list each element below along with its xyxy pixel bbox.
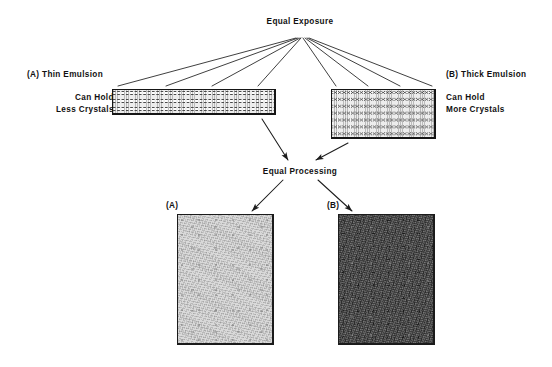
exposure-ray-r1 — [303, 38, 336, 86]
arrow-processing-to-result-a — [252, 180, 283, 211]
exposure-ray-l1 — [118, 38, 296, 86]
exposure-ray-l4 — [258, 38, 301, 86]
title-equal-exposure: Equal Exposure — [267, 16, 334, 28]
thin-emulsion-cross-section — [112, 89, 276, 115]
label-thick-capacity-line-2: More Crystals — [446, 104, 505, 116]
arrow-thick-to-processing — [316, 143, 348, 160]
grain-texture-b — [339, 215, 433, 343]
grain-texture-a — [178, 215, 272, 343]
thick-emulsion-cross-section — [331, 89, 436, 139]
result-patch-b-high-density — [338, 214, 435, 345]
emulsion-hatch-thick — [332, 90, 434, 137]
connector-lines — [0, 0, 552, 367]
label-thick-emulsion-capacity: Can Hold More Crystals — [446, 92, 505, 115]
exposure-ray-r3 — [307, 38, 400, 86]
label-thick-capacity-line-1: Can Hold — [446, 92, 505, 104]
exposure-ray-r2 — [305, 38, 368, 86]
label-thin-emulsion-heading: (A) Thin Emulsion — [27, 69, 103, 81]
label-result-a: (A) — [166, 200, 178, 212]
label-thin-capacity-line-2: Less Crystals — [56, 104, 114, 116]
label-thick-emulsion-heading: (B) Thick Emulsion — [446, 69, 526, 81]
arrow-thin-to-processing — [262, 119, 288, 160]
label-result-b: (B) — [327, 200, 339, 212]
label-thin-emulsion-capacity: Can Hold Less Crystals — [56, 92, 114, 115]
result-patch-a-low-density — [177, 214, 274, 345]
title-equal-processing: Equal Processing — [263, 166, 337, 178]
exposure-ray-l3 — [212, 38, 300, 86]
label-thin-capacity-line-1: Can Hold — [56, 92, 114, 104]
exposure-ray-r4 — [309, 38, 432, 86]
figure-equal-exposure-emulsion-thickness: Equal Exposure Equal Processing (A) Thin… — [0, 0, 552, 367]
emulsion-hatch-thin — [113, 90, 274, 113]
exposure-ray-l2 — [166, 38, 298, 86]
